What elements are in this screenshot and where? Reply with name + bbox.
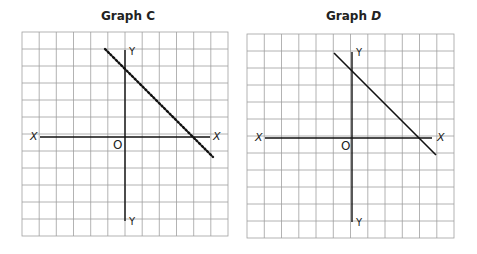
- graph-c-x-right-label: X: [213, 131, 221, 142]
- graph-c-y-top-label: Y: [129, 46, 135, 57]
- graph-c-title-var: C: [146, 9, 155, 23]
- graph-d-grid: [247, 34, 454, 238]
- graph-d-y-top-label: Y: [356, 47, 362, 58]
- graph-c-title-prefix: Graph: [101, 9, 142, 23]
- graph-d-title-var: D: [371, 9, 381, 23]
- graph-d-title-prefix: Graph: [326, 9, 367, 23]
- graph-d-y-bottom-label: Y: [356, 217, 362, 228]
- graph-c-origin-label: O: [113, 140, 122, 151]
- graph-c-title: Graph C: [101, 9, 155, 23]
- graph-c-x-left-label: X: [30, 131, 38, 142]
- graph-d-x-left-label: X: [255, 132, 263, 143]
- graph-d-origin-label: O: [341, 141, 350, 152]
- graph-c-y-bottom-label: Y: [129, 216, 135, 227]
- graphs-canvas: [0, 0, 477, 254]
- graph-d-x-right-label: X: [437, 132, 445, 143]
- graph-d-title: Graph D: [326, 9, 381, 23]
